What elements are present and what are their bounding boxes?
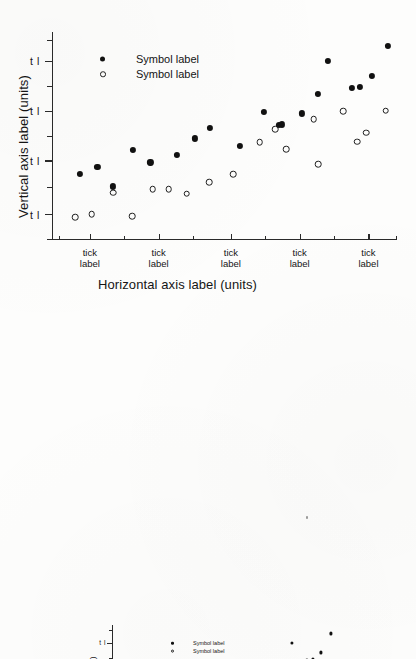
y-axis-title: Vertical axis label (units) [16, 75, 31, 218]
figure-small: Symbol label Symbol label Horizontal axi… [0, 500, 416, 659]
data-point-open [315, 161, 322, 168]
data-point-open [354, 138, 361, 145]
x-axis-tick-minor [193, 236, 194, 240]
legend-label-open: Symbol label [136, 68, 199, 80]
y-axis-tick-label: t l [20, 105, 40, 117]
legend-label-filled: Symbol label [136, 53, 199, 65]
data-point-open [206, 179, 213, 186]
y-axis-tick-minor [47, 187, 53, 188]
figure-medium: Symbol label Symbol label Horizontal axi… [0, 300, 416, 500]
y-axis-tick-minor [47, 239, 53, 240]
data-point-filled [261, 109, 267, 115]
data-point-filled [325, 58, 331, 64]
data-point-open [310, 116, 317, 123]
data-point-open [283, 146, 290, 153]
y-axis-tick-label: t l [20, 155, 40, 167]
x-axis-line [52, 239, 396, 240]
open-circle-icon [100, 71, 106, 77]
data-point-open [165, 186, 172, 193]
data-point-filled [385, 43, 391, 49]
x-axis-tick-label: tick label [129, 248, 189, 269]
data-point-filled [299, 110, 305, 116]
x-axis-title: Horizontal axis label (units) [98, 277, 257, 292]
x-axis-tick-label: tick label [60, 248, 120, 269]
y-axis-tick-label: t l [20, 209, 40, 221]
x-axis-tick-major [90, 234, 91, 240]
data-point-open [340, 108, 347, 115]
data-point-open [72, 214, 79, 221]
data-point-filled [237, 143, 243, 149]
data-point-open [183, 190, 190, 197]
figure-large: Symbol label Symbol label Horizontal axi… [0, 0, 416, 300]
x-axis-tick-major [231, 234, 232, 240]
data-point-filled [357, 84, 363, 90]
x-axis-tick-minor [265, 236, 266, 240]
data-point-filled [349, 85, 355, 91]
data-point-filled [192, 135, 198, 141]
x-axis-tick-label: tick label [338, 248, 398, 269]
data-point-open [89, 211, 96, 218]
data-point-filled [94, 164, 100, 170]
legend-entry-filled: Symbol label [100, 53, 199, 65]
data-point-filled [279, 121, 285, 127]
data-point-filled [77, 171, 83, 177]
y-axis-tick-major [45, 61, 53, 62]
y-axis-tick-major [45, 111, 53, 112]
x-axis-tick-minor [59, 236, 60, 240]
data-point-open [363, 129, 370, 136]
plot-area-large: Symbol label Symbol label Horizontal axi… [0, 0, 416, 300]
x-axis-tick-minor [334, 236, 335, 240]
data-point-filled [130, 146, 136, 152]
data-point-open [382, 108, 389, 115]
scan-speck [306, 516, 308, 519]
page-canvas: Symbol label Symbol label Horizontal axi… [0, 0, 416, 659]
y-axis-tick-major [45, 160, 53, 161]
data-point-open [110, 190, 117, 197]
x-axis-tick-label: tick label [270, 248, 330, 269]
y-axis-tick-label: t l [20, 55, 40, 67]
data-point-open [149, 186, 156, 193]
y-axis-tick-major [45, 214, 53, 215]
data-point-filled [174, 152, 180, 158]
x-axis-tick-major [368, 234, 369, 240]
data-point-filled [369, 73, 375, 79]
data-point-filled [207, 125, 213, 131]
data-point-open [256, 139, 263, 146]
plot-area-medium: Symbol label Symbol label Horizontal axi… [0, 300, 416, 500]
data-point-filled [147, 159, 153, 165]
data-point-open [230, 171, 237, 178]
y-axis-tick-minor [47, 136, 53, 137]
filled-circle-icon [100, 57, 105, 62]
data-point-filled [315, 91, 321, 97]
plot-area-small: Symbol label Symbol label Horizontal axi… [0, 500, 416, 659]
y-axis-tick-minor [47, 86, 53, 87]
legend-entry-open: Symbol label [100, 68, 199, 80]
x-axis-tick-major [300, 234, 301, 240]
data-point-open [272, 126, 279, 133]
x-axis-tick-label: tick label [201, 248, 261, 269]
data-point-open [129, 213, 136, 220]
x-axis-tick-minor [396, 236, 397, 240]
x-axis-tick-major [159, 234, 160, 240]
x-axis-tick-minor [124, 236, 125, 240]
y-axis-tick-minor [47, 40, 53, 41]
